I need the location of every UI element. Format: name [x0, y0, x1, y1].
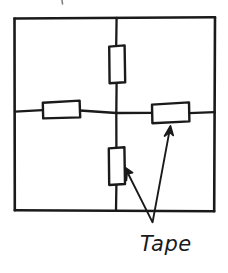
- arrow-to-right-tape-shaft: [153, 127, 171, 222]
- horizontal-segment-mid-left: [80, 111, 116, 114]
- frame-bottom-edge: [15, 210, 214, 211]
- tape-strip-left: [43, 101, 80, 119]
- tape-label: Tape: [140, 232, 192, 256]
- horizontal-segment-left: [15, 110, 43, 111]
- annotation-arrows: [125, 126, 173, 222]
- tape-strip-right: [152, 102, 189, 123]
- stray-pen-mark: [62, 0, 63, 4]
- sketch-canvas: Tape: [0, 0, 228, 273]
- tape-right-outline: [152, 102, 189, 123]
- tape-diagram-figure: Tape: [0, 0, 228, 273]
- arrow-to-bottom-tape-shaft: [125, 168, 152, 221]
- tape-left-outline: [43, 101, 80, 119]
- horizontal-segment-right: [189, 112, 215, 113]
- frame-top-edge: [15, 17, 216, 18]
- tape-bottom-outline: [109, 147, 125, 185]
- tape-top-outline: [109, 45, 125, 83]
- tape-strip-bottom: [109, 147, 125, 185]
- frame-right-edge: [214, 17, 215, 211]
- tape-strip-top: [109, 45, 125, 83]
